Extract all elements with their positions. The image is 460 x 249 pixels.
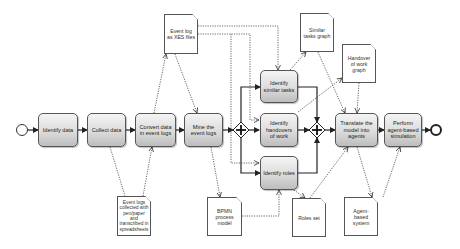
task-label: Convert data in event logs [138,124,173,137]
doc-abs-system[interactable]: Agent-based system [344,197,378,236]
doc-label: Handover of work graph [345,55,373,73]
task-label: Identify similar tasks [263,80,295,93]
doc-label: Event logs collected with pen/paper and … [120,200,149,232]
gateway-join [309,122,325,138]
task-label: Translate the model into agents [338,120,375,139]
task-convert-data[interactable]: Convert data in event logs [135,113,176,147]
end-event [430,124,442,136]
doc-similar-graph[interactable]: Similar tasks graph [300,13,334,52]
doc-xes-log[interactable]: Event log as XES files [164,14,198,54]
start-event [16,124,28,136]
task-perform-simulation[interactable]: Perform agent-based simulation [384,113,422,147]
gateway-split [233,122,249,138]
task-identify-data[interactable]: Identify data [38,113,78,147]
task-translate-model[interactable]: Translate the model into agents [335,113,378,147]
task-identify-similar[interactable]: Identify similar tasks [260,70,298,103]
doc-paper-logs[interactable]: Event logs collected with pen/paper and … [117,196,151,236]
doc-roles-set[interactable]: Roles set [292,198,326,237]
task-identify-roles[interactable]: Identify roles [260,156,298,190]
doc-label: Agent-based system [347,208,375,226]
task-label: Identify handovers of work [263,120,295,139]
task-label: Mine the event logs [187,124,220,137]
task-collect-data[interactable]: Collect data [87,113,126,147]
task-label: Identify data [43,127,73,133]
doc-label: Roles set [298,215,320,221]
task-label: Collect data [92,127,122,133]
task-identify-handovers[interactable]: Identify handovers of work [260,113,298,147]
doc-bpmn-model[interactable]: BPMN process model [207,197,242,236]
task-label: Perform agent-based simulation [387,120,419,139]
task-label: Identify roles [263,170,295,176]
doc-label: Similar tasks graph [303,27,331,39]
task-mine-logs[interactable]: Mine the event logs [184,113,223,147]
doc-label: Event log as XES files [167,28,195,40]
doc-label: BPMN process model [210,208,239,226]
doc-handover-graph[interactable]: Handover of work graph [342,44,376,83]
